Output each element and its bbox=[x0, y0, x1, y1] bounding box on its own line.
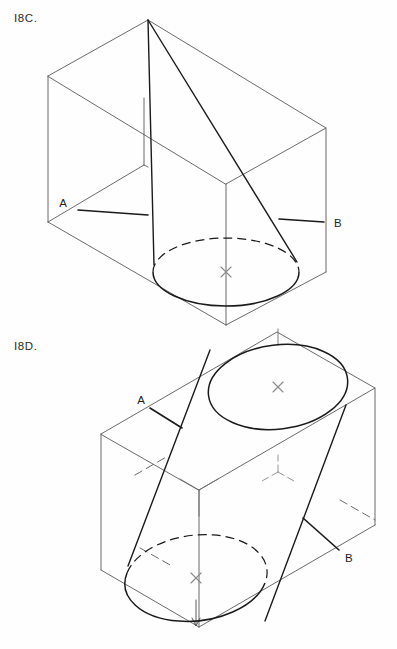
cylinder-18d-side-left bbox=[128, 350, 210, 566]
callout-18d-a-label: A bbox=[137, 394, 145, 406]
box-18d-hidden-left bbox=[140, 548, 172, 566]
corner-mark-18d-right bbox=[262, 455, 294, 481]
cylinder-18d-bottom-visible-arc bbox=[125, 573, 265, 621]
callout-18d-a-leader bbox=[150, 408, 182, 428]
callout-18d-b-leader bbox=[303, 518, 339, 550]
callout-18d-a[interactable]: A bbox=[137, 394, 182, 428]
center-mark-18d-top bbox=[273, 382, 283, 392]
callout-18d-b[interactable]: B bbox=[303, 518, 353, 564]
corner-mark-18d-left bbox=[180, 479, 218, 516]
cylinder-18d-bottom-hidden-arc bbox=[127, 535, 267, 583]
figure-18d-drawing: A B bbox=[0, 0, 397, 649]
callout-18d-b-label: B bbox=[345, 552, 353, 564]
cylinder-18d-side-lines bbox=[128, 350, 346, 621]
box-18d-bottom-left-edge bbox=[101, 570, 199, 627]
box-18d bbox=[101, 332, 375, 627]
cylinder-18d-side-right bbox=[265, 405, 346, 621]
box-18d-bottom-right-edge bbox=[199, 525, 375, 627]
center-mark-18d-bottom bbox=[191, 573, 201, 583]
box-18d-hidden-top-right bbox=[340, 500, 375, 520]
drawing-sheet: I8C. I8D. bbox=[0, 0, 397, 649]
